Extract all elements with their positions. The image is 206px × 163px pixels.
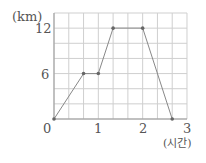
data-point <box>82 72 86 76</box>
origin-label: 0 <box>43 121 51 136</box>
x-tick-2: 2 <box>139 121 147 136</box>
x-axis-unit-label: (시간) <box>163 137 192 150</box>
data-point <box>52 117 56 121</box>
data-point <box>141 26 145 30</box>
x-tick-1: 1 <box>94 121 102 136</box>
y-tick-12: 12 <box>35 21 52 36</box>
data-point <box>111 26 115 30</box>
data-point <box>97 72 101 76</box>
y-tick-6: 6 <box>41 67 49 82</box>
x-tick-3: 3 <box>183 121 191 136</box>
distance-time-chart: (km) 12 6 0 1 2 3 (시간) <box>0 0 206 163</box>
data-point <box>170 117 174 121</box>
